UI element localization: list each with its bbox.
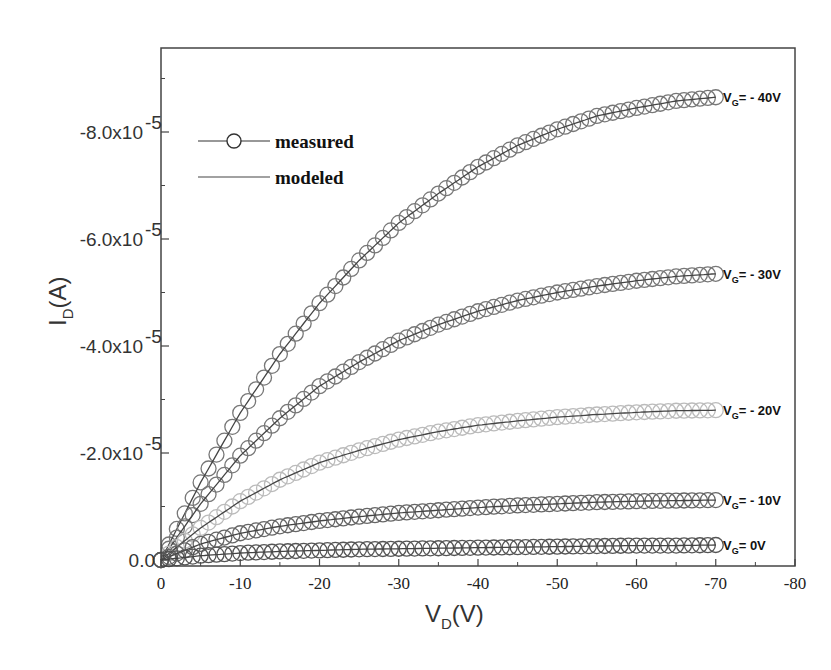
- circle-marker-icon: [227, 134, 241, 148]
- y-tick-label: -2.0x10: [80, 443, 143, 464]
- plot-curves: [154, 90, 724, 568]
- y-tick-label: -8.0x10: [80, 122, 143, 143]
- y-tick-exponent: -5: [145, 433, 162, 454]
- legend-modeled: modeled: [198, 167, 344, 188]
- curve-label: VG= - 40V: [723, 90, 781, 108]
- curve-labels: VG= - 40VVG= - 30VVG= - 20VVG= - 10VVG= …: [723, 90, 781, 556]
- x-tick-label: -60: [625, 574, 648, 593]
- x-tick-label: 0: [157, 574, 166, 593]
- legend: measured modeled: [198, 131, 354, 188]
- y-tick-label: -6.0x10: [80, 229, 143, 250]
- x-tick-label: -50: [546, 574, 569, 593]
- legend-measured: measured: [198, 131, 354, 152]
- y-tick-exponent: -5: [145, 326, 162, 347]
- y-axis-ticks: 0.0-2.0x10-5-4.0x10-5-6.0x10-5-8.0x10-5: [80, 79, 169, 572]
- y-tick-label: 0.0: [129, 550, 155, 571]
- x-tick-label: -40: [467, 574, 490, 593]
- y-tick-exponent: -5: [145, 219, 162, 240]
- y-axis-title: ID(A): [44, 276, 76, 326]
- x-tick-label: -70: [704, 574, 727, 593]
- curve-label: VG= - 10V: [723, 493, 781, 511]
- id-vd-chart: 0-10-20-30-40-50-60-70-80 0.0-2.0x10-5-4…: [0, 0, 831, 670]
- curve-label: VG= - 30V: [723, 267, 781, 285]
- x-tick-label: -30: [387, 574, 410, 593]
- legend-label-modeled: modeled: [275, 167, 344, 188]
- curve-label: VG= 0V: [723, 538, 766, 556]
- series-curve: [154, 266, 724, 567]
- y-tick-exponent: -5: [145, 112, 162, 133]
- y-tick-label: -4.0x10: [80, 336, 143, 357]
- x-tick-label: -20: [308, 574, 331, 593]
- x-axis-ticks: 0-10-20-30-40-50-60-70-80: [157, 559, 807, 593]
- curve-label: VG= - 20V: [723, 403, 781, 421]
- x-tick-label: -80: [784, 574, 807, 593]
- legend-label-measured: measured: [275, 131, 354, 152]
- x-axis-title: VD(V): [425, 600, 484, 632]
- x-tick-label: -10: [229, 574, 252, 593]
